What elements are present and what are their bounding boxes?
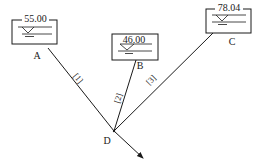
reservoir-c-label: C: [229, 36, 236, 47]
reservoir-a-elevation: 55.00: [24, 13, 47, 24]
diagram-svg: 55.00 A 46.00 B 78.04: [0, 0, 258, 165]
reservoir-c-elevation: 78.04: [218, 2, 241, 13]
reservoir-c: 78.04 C: [206, 2, 251, 47]
outflow-arrow-icon: [114, 131, 143, 158]
reservoir-b-label: B: [137, 60, 144, 71]
pipe-network-diagram: 55.00 A 46.00 B 78.04: [0, 0, 258, 165]
reservoir-a: 55.00 A: [12, 13, 57, 61]
pipe-3-label: [3]: [144, 73, 158, 87]
reservoir-a-label: A: [33, 50, 41, 61]
water-surface-icon: [212, 15, 246, 25]
reservoir-b-elevation: 46.00: [123, 34, 146, 45]
junction-d-label: D: [103, 135, 110, 146]
pipe-1-label: [1]: [71, 71, 85, 85]
reservoir-b: 46.00 B: [112, 34, 158, 71]
water-surface-icon: [18, 27, 52, 37]
pipe-1: [48, 48, 114, 131]
water-surface-icon: [118, 44, 152, 54]
